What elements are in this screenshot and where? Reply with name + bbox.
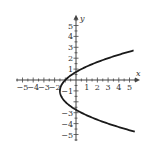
x-tick-label: 4 [116, 83, 121, 92]
chart: −5−4−3−21234554321−1−3−4−5 x y [0, 0, 148, 153]
y-tick-label: 5 [68, 22, 73, 31]
y-tick-label: −1 [61, 87, 73, 96]
y-tick-label: 3 [68, 43, 73, 52]
x-axis-label: x [136, 69, 141, 78]
y-tick-label: 2 [68, 54, 73, 63]
x-tick-label: 2 [95, 83, 100, 92]
x-tick-label: −2 [49, 83, 61, 92]
x-axis-arrow-icon [135, 78, 140, 83]
x-tick-label: 3 [106, 83, 111, 92]
y-tick-label: 4 [68, 32, 73, 41]
x-tick-label: 5 [127, 83, 132, 92]
y-tick-label: −4 [61, 120, 73, 129]
y-tick-label: −3 [61, 109, 73, 118]
y-tick-label: 1 [68, 65, 73, 74]
y-axis-label: y [79, 14, 85, 23]
y-tick-label: −5 [61, 131, 73, 140]
y-axis-arrow-icon [74, 15, 79, 20]
x-tick-label: 1 [84, 83, 89, 92]
axes [16, 15, 140, 141]
